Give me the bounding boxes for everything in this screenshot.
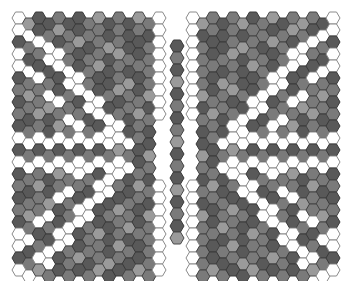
hex-pattern-board bbox=[0, 0, 348, 281]
hex-cell bbox=[170, 184, 184, 196]
hex-cell bbox=[152, 264, 166, 276]
hex-cell bbox=[152, 60, 166, 72]
hex-cell bbox=[152, 72, 166, 84]
hex-cell bbox=[326, 264, 340, 276]
hex-cell bbox=[326, 144, 340, 156]
hex-cell bbox=[326, 168, 340, 180]
hex-cell bbox=[152, 180, 166, 192]
hex-cell bbox=[152, 252, 166, 264]
hex-cell bbox=[170, 232, 184, 244]
center-column bbox=[170, 40, 184, 244]
hex-cell bbox=[170, 112, 184, 124]
hex-cell bbox=[326, 228, 340, 240]
hex-cell bbox=[170, 136, 184, 148]
hex-cell bbox=[170, 88, 184, 100]
hex-cell bbox=[326, 204, 340, 216]
hex-cell bbox=[326, 156, 340, 168]
hex-cell bbox=[326, 48, 340, 60]
hex-cell bbox=[326, 216, 340, 228]
hex-cell bbox=[152, 12, 166, 24]
hex-cell bbox=[326, 12, 340, 24]
hex-cell bbox=[326, 180, 340, 192]
hex-cell bbox=[326, 72, 340, 84]
hex-cell bbox=[326, 192, 340, 204]
hex-cell bbox=[326, 24, 340, 36]
hex-cell bbox=[326, 36, 340, 48]
hex-cell bbox=[152, 96, 166, 108]
hex-cell bbox=[326, 252, 340, 264]
hex-cell bbox=[170, 196, 184, 208]
hex-cell bbox=[326, 108, 340, 120]
hex-cell bbox=[170, 76, 184, 88]
hex-cell bbox=[152, 24, 166, 36]
hex-cell bbox=[152, 48, 166, 60]
hex-cell bbox=[152, 204, 166, 216]
hex-cell bbox=[170, 148, 184, 160]
hex-cell bbox=[326, 84, 340, 96]
hex-cell bbox=[170, 52, 184, 64]
hex-cell bbox=[326, 96, 340, 108]
hex-cell bbox=[152, 240, 166, 252]
hex-grid bbox=[0, 0, 348, 281]
hex-cell bbox=[152, 36, 166, 48]
hex-cell bbox=[170, 172, 184, 184]
hex-cell bbox=[152, 228, 166, 240]
hex-cell bbox=[326, 132, 340, 144]
hex-cell bbox=[326, 60, 340, 72]
hex-cell bbox=[170, 124, 184, 136]
hex-cell bbox=[170, 220, 184, 232]
hex-cell bbox=[152, 192, 166, 204]
left-block bbox=[12, 12, 166, 281]
hex-cell bbox=[326, 120, 340, 132]
hex-cell bbox=[152, 84, 166, 96]
hex-cell bbox=[326, 240, 340, 252]
hex-cell bbox=[170, 208, 184, 220]
hex-cell bbox=[170, 40, 184, 52]
hex-cell bbox=[170, 160, 184, 172]
hex-cell bbox=[152, 216, 166, 228]
hex-cell bbox=[152, 108, 166, 120]
right-block bbox=[186, 12, 340, 281]
hex-cell bbox=[170, 100, 184, 112]
hex-cell bbox=[170, 64, 184, 76]
